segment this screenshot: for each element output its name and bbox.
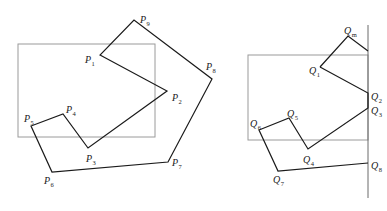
polygon-p — [31, 20, 212, 172]
vertex-label-p2: P2 — [171, 92, 182, 105]
vertex-label-q6: Q6 — [250, 118, 262, 131]
p-vertex-labels: P1P2P3P4P5P6P7P8P9 — [23, 14, 216, 188]
vertex-label-qm: Qm — [344, 25, 357, 38]
clipping-diagram: P1P2P3P4P5P6P7P8P9 Q1Q2Q3Q4Q5Q6Q7Q8Qm — [0, 0, 387, 211]
polygon-q — [259, 67, 368, 171]
vertex-label-q7: Q7 — [273, 174, 285, 187]
vertex-label-q2: Q2 — [371, 91, 382, 104]
vertex-label-q5: Q5 — [287, 108, 298, 121]
vertex-label-p1: P1 — [84, 54, 95, 67]
vertex-label-q8: Q8 — [371, 160, 382, 173]
polygon-q-top-segment — [320, 36, 368, 67]
left-panel: P1P2P3P4P5P6P7P8P9 — [18, 14, 216, 188]
q-vertex-labels: Q1Q2Q3Q4Q5Q6Q7Q8Qm — [250, 25, 382, 187]
vertex-label-p3: P3 — [85, 153, 96, 166]
vertex-label-q4: Q4 — [303, 154, 315, 167]
vertex-label-q1: Q1 — [309, 65, 320, 78]
vertex-label-q3: Q3 — [371, 105, 382, 118]
vertex-label-p9: P9 — [139, 14, 150, 27]
vertex-label-p5: P5 — [23, 113, 34, 126]
right-panel: Q1Q2Q3Q4Q5Q6Q7Q8Qm — [248, 25, 382, 198]
vertex-label-p6: P6 — [43, 175, 55, 188]
vertex-label-p4: P4 — [65, 104, 77, 117]
vertex-label-p7: P7 — [171, 157, 183, 170]
vertex-label-p8: P8 — [205, 61, 216, 74]
